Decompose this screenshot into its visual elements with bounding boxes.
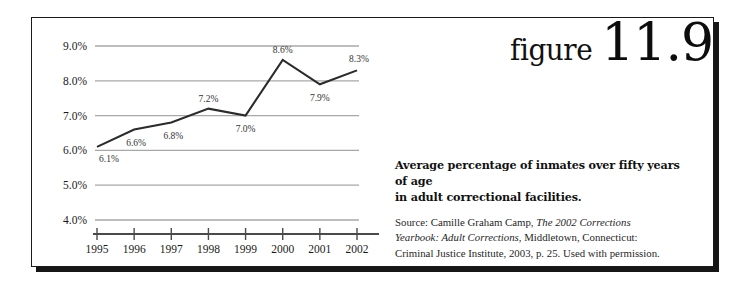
x-axis-tick-label: 1997 <box>160 243 183 255</box>
data-point-label: 6.6% <box>126 138 146 148</box>
figure-number-value: 11.9 <box>601 16 713 68</box>
line-chart: 9.0%8.0%7.0%6.0%5.0%4.0%1995199619971998… <box>32 28 412 263</box>
y-axis-tick-label: 9.0% <box>63 40 87 52</box>
x-axis-tick-label: 1995 <box>86 243 109 255</box>
data-series-line <box>97 60 357 147</box>
data-point-label: 7.9% <box>310 93 330 103</box>
y-axis-tick-label: 6.0% <box>63 144 87 156</box>
source-publisher: , Middletown, Connecticut: <box>519 231 638 243</box>
data-point-label: 7.0% <box>236 124 256 134</box>
x-axis-tick-label: 1999 <box>234 243 257 255</box>
x-axis-tick-label: 2001 <box>308 243 331 255</box>
y-axis-tick-label: 8.0% <box>63 75 87 87</box>
caption-title-line2: in adult correctional facilities. <box>395 190 582 204</box>
x-axis-tick-label: 1998 <box>197 243 220 255</box>
caption-source: Source: Camille Graham Camp, The 2002 Co… <box>395 215 695 262</box>
data-point-label: 8.6% <box>273 45 293 55</box>
caption-block: Average percentage of inmates over fifty… <box>395 158 695 262</box>
x-axis-tick-label: 1996 <box>123 243 146 255</box>
source-prefix: Source: Camille Graham Camp, <box>395 216 536 228</box>
x-axis-tick-label: 2002 <box>346 243 369 255</box>
figure-label: figure <box>510 35 592 65</box>
chart-svg: 9.0%8.0%7.0%6.0%5.0%4.0%1995199619971998… <box>32 28 412 263</box>
caption-title-line1: Average percentage of inmates over fifty… <box>395 158 680 188</box>
data-point-label: 6.1% <box>99 154 119 164</box>
data-point-label: 6.8% <box>163 131 183 141</box>
y-axis-tick-label: 4.0% <box>63 214 87 226</box>
source-title-part1: The 2002 Corrections <box>536 216 630 228</box>
x-axis-tick-label: 2000 <box>271 243 294 255</box>
data-point-label: 8.3% <box>349 54 369 64</box>
y-axis-tick-label: 7.0% <box>63 110 87 122</box>
caption-title: Average percentage of inmates over fifty… <box>395 158 695 206</box>
figure-panel: figure 11.9 9.0%8.0%7.0%6.0%5.0%4.0%1995… <box>31 17 714 267</box>
y-axis-tick-label: 5.0% <box>63 179 87 191</box>
data-point-label: 7.2% <box>199 94 219 104</box>
source-tail: Criminal Justice Institute, 2003, p. 25.… <box>395 247 660 259</box>
source-title-part2: Yearbook: Adult Corrections <box>395 231 519 243</box>
figure-number: figure 11.9 <box>507 16 713 68</box>
